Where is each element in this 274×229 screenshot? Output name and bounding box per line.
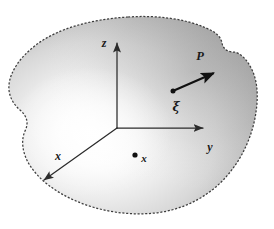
axis-label-x: x [54,149,61,163]
continuum-body-diagram: z y x x P ξ [0,0,274,229]
vector-label-P: P [196,49,204,63]
continuum-body-shape [9,16,257,213]
figure-container: z y x x P ξ [0,0,274,229]
point-label-x: x [140,152,147,164]
axis-label-y: y [205,140,213,154]
point-dot-x [132,152,137,157]
axis-label-z: z [101,36,107,50]
point-label-xi: ξ [172,100,180,114]
